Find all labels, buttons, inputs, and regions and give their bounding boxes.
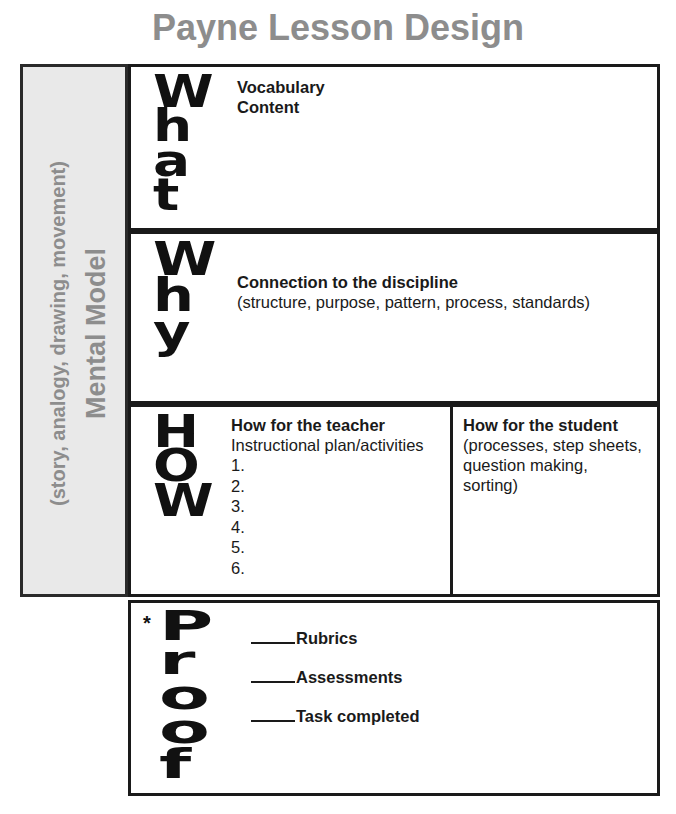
proof-asterisk: * (143, 613, 151, 633)
page-title: Payne Lesson Design (0, 6, 676, 50)
how-teacher-heading: How for the teacher (231, 415, 444, 435)
how-teacher-item-4: 4. (231, 517, 444, 538)
why-line-detail: (structure, purpose, pattern, process, s… (237, 292, 647, 312)
how-student-line-2: question making, sorting) (463, 455, 647, 495)
how-teacher-subheading: Instructional plan/activities (231, 435, 444, 455)
how-teacher-item-3: 3. (231, 496, 444, 517)
proof-letter-f: f (159, 747, 191, 781)
row-proof: * P r o o f Rubrics Assessments Task com… (128, 600, 660, 796)
proof-label-assessments: Assessments (296, 668, 402, 686)
proof-checklist: Rubrics Assessments Task completed (241, 603, 657, 793)
proof-blank-task-completed[interactable] (251, 707, 295, 722)
how-letter-w: W (153, 484, 214, 518)
what-letter-t: t (153, 178, 179, 212)
row-how: H O W How for the teacher Instructional … (128, 404, 660, 597)
how-teacher-item-6: 6. (231, 558, 444, 579)
how-teacher-cell: H O W How for the teacher Instructional … (131, 407, 453, 594)
how-student-line-1: (processes, step sheets, (463, 435, 647, 455)
what-line-content: Content (237, 97, 647, 117)
mental-model-text-wrap: Mental Model (story, analogy, drawing, m… (23, 67, 131, 600)
proof-checklist-item-task-completed[interactable]: Task completed (251, 707, 647, 726)
how-teacher-item-5: 5. (231, 537, 444, 558)
how-student-heading: How for the student (463, 415, 647, 435)
why-word-column: W h y (131, 234, 227, 401)
proof-blank-rubrics[interactable] (251, 629, 295, 644)
proof-blank-assessments[interactable] (251, 668, 295, 683)
mental-model-columns: Mental Model (story, analogy, drawing, m… (40, 67, 114, 600)
mental-model-title-cell: Mental Model (78, 67, 114, 600)
why-line-heading: Connection to the discipline (237, 272, 647, 292)
row-why: W h y Connection to the discipline (stru… (128, 231, 660, 404)
how-teacher-content: How for the teacher Instructional plan/a… (227, 407, 450, 594)
why-content: Connection to the discipline (structure,… (227, 234, 657, 401)
proof-label-rubrics: Rubrics (296, 629, 357, 647)
how-teacher-item-2: 2. (231, 476, 444, 497)
how-teacher-item-1: 1. (231, 455, 444, 476)
mental-model-heading: Mental Model (81, 248, 112, 419)
how-student-cell: How for the student (processes, step she… (453, 407, 657, 594)
mental-model-subtitle: (story, analogy, drawing, movement) (47, 161, 70, 506)
what-content: Vocabulary Content (227, 67, 657, 228)
why-letter-y: y (153, 314, 191, 350)
proof-word-column: * P r o o f (131, 603, 241, 793)
mental-model-subtitle-cell: (story, analogy, drawing, movement) (40, 67, 76, 600)
how-word-column: H O W (131, 407, 227, 594)
proof-checklist-item-assessments[interactable]: Assessments (251, 668, 647, 687)
what-word-column: W h a t (131, 67, 227, 228)
mental-model-sidebar: Mental Model (story, analogy, drawing, m… (20, 64, 128, 597)
proof-checklist-item-rubrics[interactable]: Rubrics (251, 629, 647, 648)
what-line-vocabulary: Vocabulary (237, 77, 647, 97)
row-what: W h a t Vocabulary Content (128, 64, 660, 231)
proof-label-task-completed: Task completed (296, 707, 419, 725)
lesson-design-diagram: Mental Model (story, analogy, drawing, m… (20, 64, 660, 796)
row-stack: W h a t Vocabulary Content W h y Connect… (128, 64, 660, 597)
